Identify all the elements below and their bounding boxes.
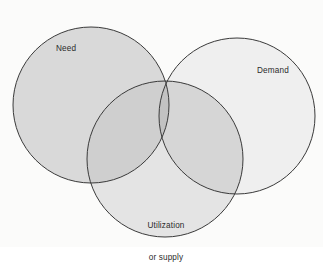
label-utilization-line-2: or supply [133, 253, 199, 264]
